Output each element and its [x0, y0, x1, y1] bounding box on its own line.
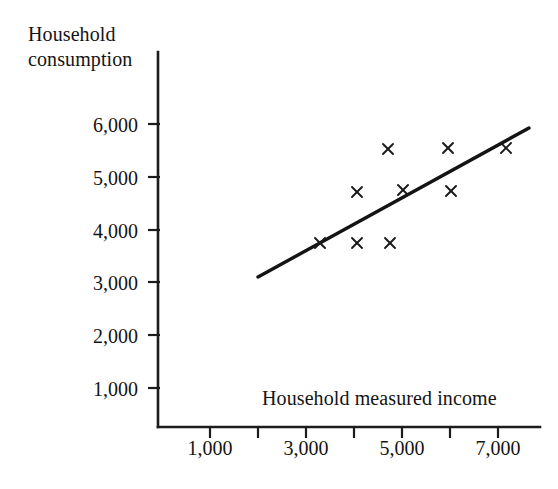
trend-line: [258, 128, 529, 277]
data-point-marker: [398, 185, 408, 195]
data-point-marker: [443, 143, 453, 153]
data-point-marker: [352, 187, 362, 197]
data-points: [315, 143, 511, 248]
x-axis-ticks: [210, 427, 498, 438]
data-point-marker: [383, 144, 393, 154]
axes-group: [158, 52, 540, 427]
chart-figure: Householdconsumption 6,000 5,000 4,000 3…: [0, 0, 558, 489]
data-point-marker: [385, 238, 395, 248]
data-point-marker: [446, 186, 456, 196]
plot-area: [0, 0, 558, 489]
regression-line: [258, 128, 529, 277]
data-point-marker: [501, 143, 511, 153]
data-point-marker: [352, 238, 362, 248]
